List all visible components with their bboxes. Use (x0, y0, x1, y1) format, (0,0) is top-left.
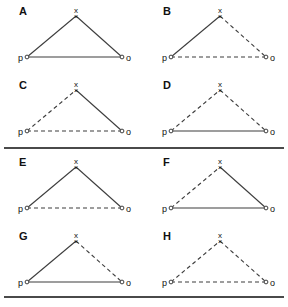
group-divider (4, 147, 284, 149)
vertex-label-o: o (270, 53, 275, 63)
triangle-diagram: po×x (144, 227, 288, 301)
vertex-p-dot (169, 129, 173, 133)
panel-row: Epo×x Fpo×x (0, 153, 288, 227)
vertex-label-x: x (74, 6, 78, 15)
vertex-label-o: o (126, 278, 131, 288)
vertex-label-o: o (270, 127, 275, 137)
vertex-o-dot (120, 55, 124, 59)
edge-x-o (76, 16, 122, 57)
panel-F: Fpo×x (144, 153, 288, 227)
vertex-label-p: p (162, 204, 167, 214)
panel-row: Cpo×x Dpo×x (0, 76, 288, 150)
panel-group-bottom: Epo×x Fpo×x Gpo×x Hpo×x (0, 153, 288, 301)
vertex-label-p: p (18, 278, 23, 288)
edge-x-o (220, 16, 266, 57)
vertex-label-p: p (162, 53, 167, 63)
triangle-diagram: po×x (0, 2, 144, 76)
triangle-diagram: po×x (144, 2, 288, 76)
panel-row: Apo×x Bpo×x (0, 2, 288, 76)
panel-B: Bpo×x (144, 2, 288, 76)
vertex-o-dot (120, 129, 124, 133)
vertex-label-x: x (218, 80, 222, 89)
vertex-o-dot (264, 129, 268, 133)
vertex-label-x: x (74, 157, 78, 166)
vertex-p-dot (169, 55, 173, 59)
edge-p-x (27, 16, 76, 57)
edge-x-o (76, 90, 122, 131)
vertex-label-o: o (126, 127, 131, 137)
edge-x-o (220, 241, 266, 282)
vertex-p-dot (25, 206, 29, 210)
triangle-diagram: po×x (0, 153, 144, 227)
panel-group-top: Apo×x Bpo×x Cpo×x Dpo×x (0, 2, 288, 150)
triangle-diagram: po×x (144, 76, 288, 150)
vertex-label-x: x (74, 80, 78, 89)
vertex-label-x: x (74, 231, 78, 240)
vertex-label-x: x (218, 6, 222, 15)
panel-row: Gpo×x Hpo×x (0, 227, 288, 301)
vertex-label-p: p (18, 127, 23, 137)
vertex-p-dot (25, 280, 29, 284)
vertex-o-dot (120, 280, 124, 284)
edge-p-x (171, 241, 220, 282)
edge-x-o (76, 241, 122, 282)
figure-bottom-rule (4, 296, 284, 298)
panel-H: Hpo×x (144, 227, 288, 301)
vertex-label-o: o (270, 204, 275, 214)
panel-E: Epo×x (0, 153, 144, 227)
vertex-p-dot (169, 280, 173, 284)
edge-p-x (171, 90, 220, 131)
edge-x-o (220, 90, 266, 131)
panel-D: Dpo×x (144, 76, 288, 150)
panel-A: Apo×x (0, 2, 144, 76)
edge-p-x (27, 167, 76, 208)
vertex-o-dot (264, 280, 268, 284)
panel-G: Gpo×x (0, 227, 144, 301)
vertex-label-p: p (162, 278, 167, 288)
vertex-o-dot (120, 206, 124, 210)
edge-p-x (27, 241, 76, 282)
vertex-label-o: o (270, 278, 275, 288)
triangle-diagram: po×x (144, 153, 288, 227)
vertex-label-p: p (162, 127, 167, 137)
panel-C: Cpo×x (0, 76, 144, 150)
triangle-diagram: po×x (0, 227, 144, 301)
vertex-p-dot (169, 206, 173, 210)
triangle-diagram: po×x (0, 76, 144, 150)
edge-x-o (76, 167, 122, 208)
figure-panel-grid: Apo×x Bpo×x Cpo×x Dpo×x Epo×x Fpo×x Gpo×… (0, 0, 288, 307)
edge-p-x (27, 90, 76, 131)
vertex-label-x: x (218, 157, 222, 166)
vertex-p-dot (25, 55, 29, 59)
vertex-label-p: p (18, 53, 23, 63)
vertex-label-o: o (126, 53, 131, 63)
edge-x-o (220, 167, 266, 208)
vertex-o-dot (264, 55, 268, 59)
edge-p-x (171, 16, 220, 57)
edge-p-x (171, 167, 220, 208)
vertex-label-o: o (126, 204, 131, 214)
vertex-label-x: x (218, 231, 222, 240)
vertex-label-p: p (18, 204, 23, 214)
vertex-o-dot (264, 206, 268, 210)
vertex-p-dot (25, 129, 29, 133)
